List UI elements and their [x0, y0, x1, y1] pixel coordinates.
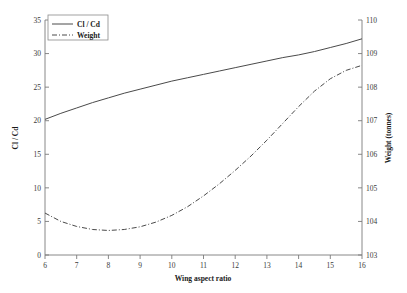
left-tick-label: 35	[34, 16, 42, 25]
left-axis-tick-labels: 05101520253035	[34, 16, 42, 260]
data-series-group	[45, 39, 362, 231]
left-axis-ticks	[45, 20, 49, 255]
right-tick-label: 108	[366, 83, 378, 92]
right-tick-label: 106	[366, 150, 378, 159]
series-line-weight	[45, 65, 362, 230]
x-tick-label: 10	[168, 261, 176, 270]
left-axis: 05101520253035 Cl / Cd	[11, 16, 49, 260]
series-line-cl-cd	[45, 39, 362, 120]
x-axis-ticks	[45, 255, 362, 259]
left-tick-label: 15	[34, 150, 42, 159]
right-tick-label: 105	[366, 184, 378, 193]
x-tick-label: 11	[200, 261, 207, 270]
right-tick-label: 109	[366, 49, 378, 58]
x-tick-label: 8	[107, 261, 111, 270]
right-tick-label: 103	[366, 251, 378, 260]
x-tick-label: 6	[43, 261, 47, 270]
left-tick-label: 20	[34, 116, 42, 125]
left-tick-label: 5	[37, 217, 41, 226]
right-tick-label: 104	[366, 217, 378, 226]
left-tick-label: 25	[34, 83, 42, 92]
x-tick-label: 15	[327, 261, 335, 270]
x-tick-label: 12	[231, 261, 239, 270]
x-tick-label: 14	[295, 261, 303, 270]
left-axis-title: Cl / Cd	[11, 126, 20, 150]
x-axis: 678910111213141516 Wing aspect ratio	[43, 255, 366, 283]
right-axis-ticks	[358, 20, 362, 255]
chart-figure: 05101520253035 Cl / Cd 10310410510610710…	[0, 0, 407, 293]
right-axis-title: Weight (tonnes)	[384, 112, 393, 163]
x-tick-label: 7	[75, 261, 79, 270]
x-tick-label: 9	[138, 261, 142, 270]
right-tick-label: 107	[366, 116, 378, 125]
chart-legend: Cl / CdWeight	[48, 15, 108, 40]
x-tick-label: 13	[263, 261, 271, 270]
left-tick-label: 30	[34, 49, 42, 58]
chart-plot-area: 05101520253035 Cl / Cd 10310410510610710…	[0, 0, 407, 293]
right-axis: 103104105106107108109110 Weight (tonnes)	[358, 16, 393, 260]
left-tick-label: 10	[34, 184, 42, 193]
legend-label: Weight	[77, 31, 100, 40]
x-axis-title: Wing aspect ratio	[175, 274, 232, 283]
legend-label: Cl / Cd	[77, 20, 101, 29]
x-tick-label: 16	[358, 261, 366, 270]
right-tick-label: 110	[366, 16, 377, 25]
right-axis-tick-labels: 103104105106107108109110	[366, 16, 378, 260]
left-tick-label: 0	[37, 251, 41, 260]
x-axis-tick-labels: 678910111213141516	[43, 261, 366, 270]
